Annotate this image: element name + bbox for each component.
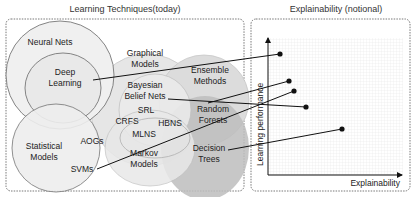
label-markov-2: Models xyxy=(130,159,157,169)
label-ensemble-2: Methods xyxy=(194,76,227,86)
right-panel-title: Explainability (notional) xyxy=(290,4,383,14)
label-markov-1: Markov xyxy=(130,148,159,158)
label-mlns: MLNS xyxy=(132,129,156,139)
point-deep-learning xyxy=(277,51,282,56)
label-bayesian-1: Bayesian xyxy=(128,80,163,90)
chart-grid xyxy=(268,38,403,175)
label-graphical-models-2: Models xyxy=(131,59,158,69)
left-panel-title: Learning Techniques(today) xyxy=(70,4,181,14)
label-ensemble-1: Ensemble xyxy=(191,65,229,75)
point-svms xyxy=(291,88,296,93)
label-aogs: AOGs xyxy=(80,136,103,146)
point-bayesian-belief-nets xyxy=(303,104,308,109)
label-graphical-models-1: Graphical xyxy=(127,48,163,58)
point-decision-trees xyxy=(339,126,344,131)
x-axis-label: Explainability xyxy=(350,178,400,188)
label-deep-learning-1: Deep xyxy=(55,67,76,77)
diagram-canvas: Learning Techniques(today) Explainabilit… xyxy=(0,0,415,197)
label-srl: SRL xyxy=(138,105,155,115)
label-decision-trees-1: Decision xyxy=(193,143,226,153)
label-statistical-2: Models xyxy=(30,152,57,162)
point-random-forests xyxy=(286,78,291,83)
label-svms: SVMs xyxy=(71,164,94,174)
label-crfs: CRFS xyxy=(115,116,138,126)
label-neural-nets: Neural Nets xyxy=(28,37,73,47)
label-random-forests-1: Random xyxy=(197,104,229,114)
label-statistical-1: Statistical xyxy=(26,141,62,151)
label-hbns: HBNS xyxy=(158,118,182,128)
label-deep-learning-2: Learning xyxy=(48,78,81,88)
label-bayesian-2: Belief Nets xyxy=(124,91,165,101)
y-axis-label: Learning performance xyxy=(255,83,265,166)
label-decision-trees-2: Trees xyxy=(198,154,219,164)
